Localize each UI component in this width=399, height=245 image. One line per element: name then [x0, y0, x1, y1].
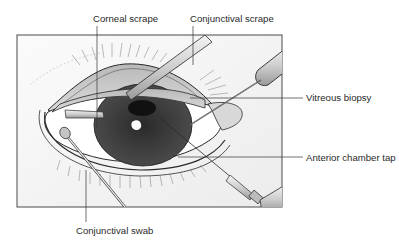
label-conjunctival-swab: Conjunctival swab	[76, 225, 153, 236]
label-corneal-scrape: Corneal scrape	[93, 13, 158, 24]
label-vitreous-biopsy: Vitreous biopsy	[306, 92, 372, 103]
eye-sampling-diagram: Corneal scrape Conjunctival scrape Vitre…	[0, 0, 399, 245]
label-conjunctival-scrape: Conjunctival scrape	[190, 13, 274, 24]
label-anterior-chamber-tap: Anterior chamber tap	[306, 152, 396, 163]
